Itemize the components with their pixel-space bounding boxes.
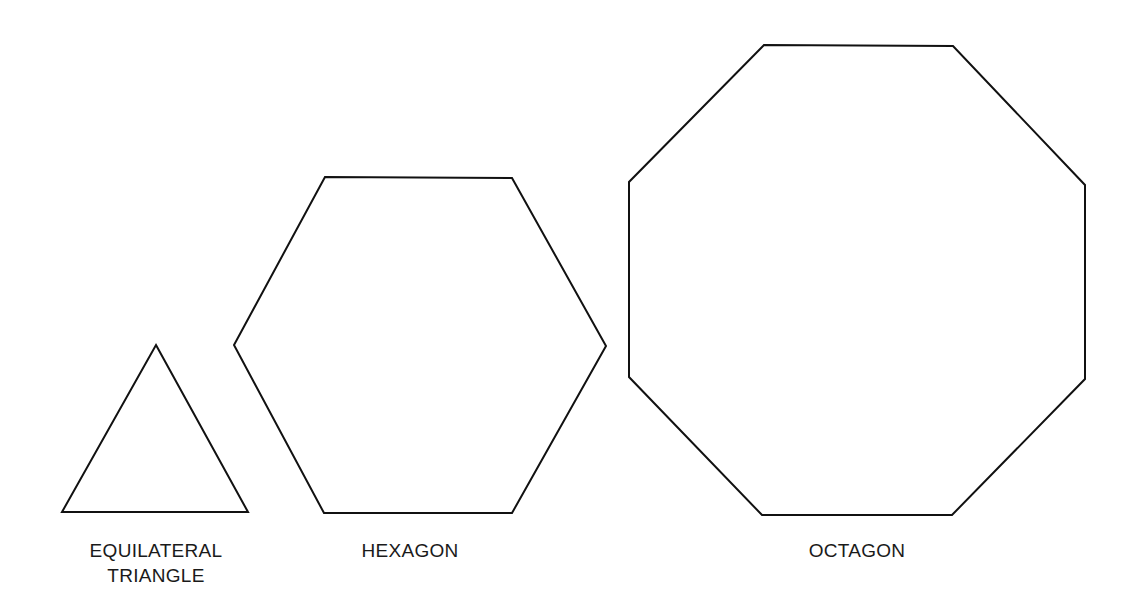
octagon-group: OCTAGON	[629, 45, 1085, 561]
hexagon-label: HEXAGON	[361, 540, 458, 561]
octagon-label: OCTAGON	[809, 540, 906, 561]
polygons-diagram: EQUILATERAL TRIANGLE HEXAGON OCTAGON	[0, 0, 1141, 613]
triangle-shape	[62, 345, 248, 512]
triangle-group: EQUILATERAL TRIANGLE	[62, 345, 248, 586]
octagon-shape	[629, 45, 1085, 515]
triangle-label-line-1: EQUILATERAL	[90, 540, 223, 561]
triangle-label-line-2: TRIANGLE	[107, 565, 204, 586]
hexagon-shape	[234, 177, 606, 513]
hexagon-group: HEXAGON	[234, 177, 606, 561]
